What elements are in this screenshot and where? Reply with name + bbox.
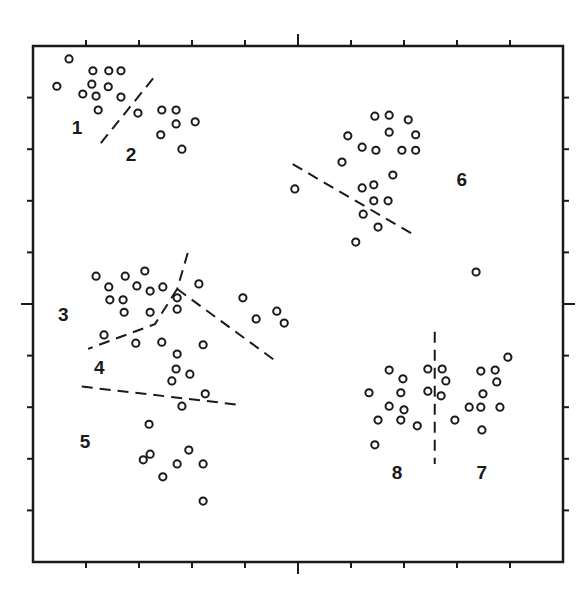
data-point — [105, 67, 112, 74]
data-points — [53, 55, 511, 504]
data-point — [157, 131, 164, 138]
cluster-label-1: 1 — [72, 117, 83, 138]
cluster-labels: 12345678 — [58, 117, 487, 483]
data-point — [424, 365, 431, 372]
data-point — [386, 129, 393, 136]
data-point — [147, 288, 154, 295]
separator-line — [101, 75, 156, 143]
data-point — [202, 390, 209, 397]
separator-line — [82, 387, 242, 406]
data-point — [371, 113, 378, 120]
cluster-label-6: 6 — [456, 169, 467, 190]
data-point — [89, 67, 96, 74]
data-point — [386, 403, 393, 410]
data-point — [159, 283, 166, 290]
data-point — [386, 366, 393, 373]
data-point — [412, 147, 419, 154]
data-point — [174, 294, 181, 301]
data-point — [117, 93, 124, 100]
separator-line — [177, 289, 277, 362]
data-point — [168, 377, 175, 384]
data-point — [359, 144, 366, 151]
cluster-label-8: 8 — [392, 462, 403, 483]
data-point — [385, 197, 392, 204]
data-point — [185, 446, 192, 453]
data-point — [398, 147, 405, 154]
scatter-chart: 12345678 — [0, 0, 584, 592]
data-point — [105, 283, 112, 290]
data-point — [195, 280, 202, 287]
data-point — [442, 377, 449, 384]
data-point — [399, 375, 406, 382]
data-point — [414, 422, 421, 429]
data-point — [389, 171, 396, 178]
data-point — [371, 441, 378, 448]
data-point — [186, 371, 193, 378]
data-point — [493, 378, 500, 385]
data-point — [477, 404, 484, 411]
data-point — [141, 267, 148, 274]
data-point — [370, 197, 377, 204]
axis-ticks — [21, 34, 575, 574]
data-point — [173, 120, 180, 127]
data-point — [496, 404, 503, 411]
data-point — [424, 388, 431, 395]
data-point — [405, 116, 412, 123]
data-point — [173, 106, 180, 113]
data-point — [192, 118, 199, 125]
data-point — [478, 426, 485, 433]
data-point — [53, 83, 60, 90]
data-point — [338, 159, 345, 166]
data-point — [158, 339, 165, 346]
data-point — [158, 106, 165, 113]
data-point — [344, 132, 351, 139]
data-point — [147, 309, 154, 316]
data-point — [477, 367, 484, 374]
data-point — [140, 456, 147, 463]
data-point — [133, 282, 140, 289]
data-point — [372, 147, 379, 154]
data-point — [145, 421, 152, 428]
data-point — [438, 392, 445, 399]
data-point — [95, 106, 102, 113]
data-point — [117, 67, 124, 74]
cluster-label-7: 7 — [477, 462, 488, 483]
data-point — [492, 366, 499, 373]
data-point — [412, 131, 419, 138]
data-point — [451, 417, 458, 424]
data-point — [147, 451, 154, 458]
data-point — [132, 340, 139, 347]
data-point — [178, 403, 185, 410]
data-point — [439, 365, 446, 372]
data-point — [92, 273, 99, 280]
data-point — [159, 473, 166, 480]
data-point — [386, 112, 393, 119]
cluster-label-5: 5 — [80, 431, 91, 452]
data-point — [370, 181, 377, 188]
data-point — [253, 315, 260, 322]
data-point — [365, 389, 372, 396]
data-point — [105, 83, 112, 90]
data-point — [352, 238, 359, 245]
separator-line — [177, 253, 188, 289]
cluster-label-3: 3 — [58, 304, 69, 325]
data-point — [79, 90, 86, 97]
data-point — [88, 81, 95, 88]
data-point — [174, 350, 181, 357]
data-point — [106, 296, 113, 303]
data-point — [239, 294, 246, 301]
data-point — [173, 365, 180, 372]
data-point — [134, 109, 141, 116]
data-point — [281, 319, 288, 326]
data-point — [291, 185, 298, 192]
data-point — [273, 308, 280, 315]
data-point — [397, 389, 404, 396]
plot-frame — [33, 46, 563, 562]
cluster-label-4: 4 — [94, 357, 105, 378]
data-point — [374, 224, 381, 231]
data-point — [178, 146, 185, 153]
data-point — [200, 460, 207, 467]
data-point — [400, 406, 407, 413]
data-point — [359, 184, 366, 191]
data-point — [121, 309, 128, 316]
